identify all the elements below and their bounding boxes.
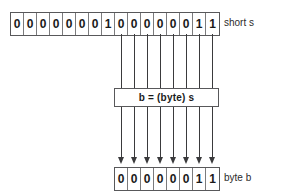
connector-line-lower-0 <box>121 107 122 159</box>
short-bit-6: 0 <box>89 13 102 35</box>
byte-bit-0: 0 <box>115 168 128 190</box>
arrowhead-6 <box>196 157 202 164</box>
connector-line-upper-0 <box>121 34 122 88</box>
connector-line-lower-7 <box>212 107 213 159</box>
connector-line-lower-2 <box>147 107 148 159</box>
arrowhead-3 <box>157 157 163 164</box>
byte-bit-7: 1 <box>206 168 219 190</box>
byte-bit-4: 0 <box>167 168 180 190</box>
arrowhead-1 <box>131 157 137 164</box>
connector-line-lower-3 <box>160 107 161 159</box>
byte-cast-diagram: 0000000100000011 short s b = (byte) s 00… <box>0 0 282 193</box>
connector-line-upper-1 <box>134 34 135 88</box>
connector-line-upper-2 <box>147 34 148 88</box>
byte-bit-2: 0 <box>141 168 154 190</box>
cast-expression-box: b = (byte) s <box>114 88 219 107</box>
short-bit-15: 1 <box>206 13 219 35</box>
short-bit-7: 1 <box>102 13 115 35</box>
connector-line-upper-7 <box>212 34 213 88</box>
short-bit-13: 0 <box>180 13 193 35</box>
connector-line-upper-3 <box>160 34 161 88</box>
short-bit-row: 0000000100000011 <box>10 12 220 36</box>
short-bit-4: 0 <box>63 13 76 35</box>
connector-line-upper-6 <box>199 34 200 88</box>
short-bit-1: 0 <box>24 13 37 35</box>
byte-row-label: byte b <box>224 173 251 183</box>
connector-line-lower-5 <box>186 107 187 159</box>
connector-line-upper-4 <box>173 34 174 88</box>
short-bit-12: 0 <box>167 13 180 35</box>
byte-bit-row: 00000011 <box>114 167 220 191</box>
short-bit-3: 0 <box>50 13 63 35</box>
short-bit-5: 0 <box>76 13 89 35</box>
connector-line-lower-6 <box>199 107 200 159</box>
connector-line-upper-5 <box>186 34 187 88</box>
short-bit-11: 0 <box>154 13 167 35</box>
arrowhead-2 <box>144 157 150 164</box>
arrowhead-5 <box>183 157 189 164</box>
short-bit-2: 0 <box>37 13 50 35</box>
connector-line-lower-4 <box>173 107 174 159</box>
arrowhead-7 <box>209 157 215 164</box>
short-bit-14: 1 <box>193 13 206 35</box>
short-bit-9: 0 <box>128 13 141 35</box>
short-bit-0: 0 <box>11 13 24 35</box>
byte-bit-6: 1 <box>193 168 206 190</box>
connector-line-lower-1 <box>134 107 135 159</box>
byte-bit-3: 0 <box>154 168 167 190</box>
short-row-label: short s <box>224 18 254 28</box>
arrowhead-4 <box>170 157 176 164</box>
byte-bit-5: 0 <box>180 168 193 190</box>
short-bit-10: 0 <box>141 13 154 35</box>
arrowhead-0 <box>118 157 124 164</box>
byte-bit-1: 0 <box>128 168 141 190</box>
short-bit-8: 0 <box>115 13 128 35</box>
